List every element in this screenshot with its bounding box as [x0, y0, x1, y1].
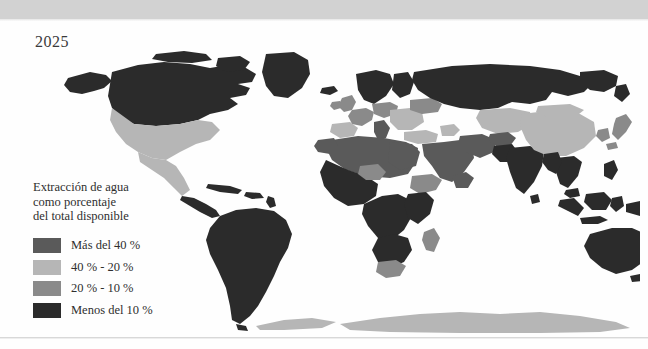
region-kamchatka	[614, 84, 630, 102]
region-japan-south	[606, 142, 618, 150]
legend-item-3: Menos del 10 %	[33, 302, 208, 318]
header-band	[0, 0, 648, 19]
region-arctic-islands	[152, 51, 212, 63]
legend-title-line-1: Extracción de agua	[33, 180, 208, 195]
legend-label-2: 20 % - 10 %	[71, 281, 134, 296]
region-caucasus	[440, 124, 460, 136]
legend-swatch-2	[33, 281, 61, 296]
region-south-america	[206, 208, 292, 324]
region-borneo	[584, 192, 612, 210]
region-italy	[374, 120, 390, 140]
region-australia	[584, 228, 640, 274]
region-ireland	[330, 101, 341, 110]
footer-rule-light	[0, 338, 648, 339]
region-sumatra	[558, 198, 584, 216]
region-madagascar	[422, 228, 440, 252]
region-korea	[596, 128, 610, 142]
legend-swatch-1	[33, 260, 61, 275]
legend-item-1: 40 % - 20 %	[33, 259, 208, 275]
region-cuba	[206, 184, 242, 194]
region-tasmania	[630, 274, 640, 282]
legend-label-1: 40 % - 20 %	[71, 260, 134, 275]
region-iberia	[330, 122, 358, 138]
map-page: 2025	[0, 0, 648, 349]
region-japan	[612, 114, 632, 140]
region-antarctic-peninsula	[256, 318, 336, 330]
region-antarctica	[340, 312, 630, 333]
region-central-africa	[362, 194, 412, 240]
region-scandinavia	[356, 70, 394, 104]
region-hispaniola	[244, 192, 264, 199]
region-new-guinea	[626, 200, 640, 216]
header-band-edge	[0, 19, 648, 21]
map-legend: Extracción de agua como porcentaje del t…	[33, 180, 208, 324]
legend-title: Extracción de agua como porcentaje del t…	[33, 180, 208, 224]
region-finland	[392, 72, 414, 98]
region-sri-lanka	[530, 194, 540, 204]
region-india	[506, 146, 544, 194]
region-philippines	[604, 160, 618, 180]
region-greenland	[262, 52, 310, 98]
legend-label-0: Más del 40 %	[71, 238, 140, 253]
region-western-europe	[348, 108, 374, 126]
legend-swatch-3	[33, 303, 61, 318]
region-horn-of-africa	[410, 174, 442, 194]
legend-item-0: Más del 40 %	[33, 238, 208, 254]
region-iceland	[320, 86, 338, 95]
region-turkey	[404, 130, 438, 144]
region-sulawesi	[610, 196, 624, 212]
legend-item-2: 20 % - 10 %	[33, 281, 208, 297]
region-java	[580, 216, 608, 224]
region-malaysia	[564, 188, 580, 198]
legend-title-line-3: del total disponible	[33, 209, 208, 224]
region-lesser-antilles	[266, 196, 276, 208]
region-canada	[108, 62, 256, 126]
legend-title-line-2: como porcentaje	[33, 195, 208, 210]
region-uk	[338, 95, 356, 112]
region-alaska	[64, 72, 112, 94]
region-patagonia-tip	[236, 324, 248, 331]
legend-swatch-0	[33, 238, 61, 253]
legend-label-3: Menos del 10 %	[71, 303, 153, 318]
